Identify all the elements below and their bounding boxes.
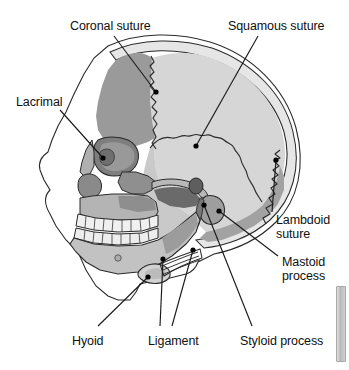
nasal-aperture bbox=[78, 174, 102, 198]
label-hyoid: Hyoid bbox=[72, 335, 103, 349]
label-coronal-suture-line-1: Coronal suture bbox=[70, 20, 151, 34]
label-ligament-line-1: Ligament bbox=[148, 335, 199, 349]
label-squamous-suture: Squamous suture bbox=[228, 20, 324, 34]
label-lacrimal: Lacrimal bbox=[16, 96, 62, 110]
label-mastoid-process-line-1: Mastoid bbox=[282, 256, 325, 270]
label-squamous-suture-line-1: Squamous suture bbox=[228, 20, 324, 34]
dot-lambdoid-suture bbox=[273, 157, 278, 162]
dot-hyoid bbox=[145, 274, 150, 279]
external-acoustic-meatus bbox=[189, 178, 203, 194]
label-hyoid-line-1: Hyoid bbox=[72, 335, 103, 349]
label-lambdoid-suture: Lambdoid suture bbox=[276, 214, 330, 241]
dot-ligament-b bbox=[190, 247, 195, 252]
dot-squamous-suture bbox=[193, 143, 198, 148]
label-lambdoid-suture-line-2: suture bbox=[276, 228, 330, 242]
scrollbar-thumb[interactable] bbox=[336, 286, 346, 362]
label-lambdoid-suture-line-1: Lambdoid bbox=[276, 214, 330, 228]
label-styloid-process: Styloid process bbox=[240, 335, 323, 349]
label-coronal-suture: Coronal suture bbox=[70, 20, 151, 34]
dot-coronal-suture bbox=[153, 89, 158, 94]
skull-diagram-figure: Coronal suture Squamous suture Lacrimal … bbox=[0, 0, 349, 370]
label-lacrimal-line-1: Lacrimal bbox=[16, 96, 62, 110]
dot-mastoid-process bbox=[216, 208, 221, 213]
dot-lacrimal bbox=[100, 155, 105, 160]
skull-illustration bbox=[0, 0, 349, 370]
label-mastoid-process: Mastoid process bbox=[282, 256, 325, 283]
dot-styloid-process bbox=[201, 202, 206, 207]
dot-ligament-a bbox=[160, 256, 165, 261]
mental-foramen bbox=[115, 255, 121, 261]
label-ligament: Ligament bbox=[148, 335, 199, 349]
label-mastoid-process-line-2: process bbox=[282, 270, 325, 284]
label-styloid-process-line-1: Styloid process bbox=[240, 335, 323, 349]
